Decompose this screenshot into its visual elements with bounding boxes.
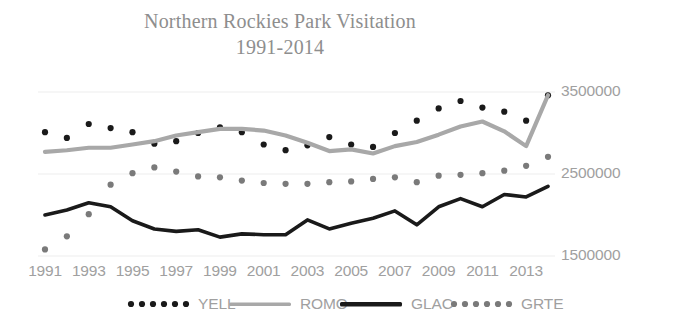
- data-point: [545, 154, 551, 160]
- data-point: [64, 233, 70, 239]
- data-point: [173, 168, 179, 174]
- x-axis-tick-label: 2001: [240, 262, 288, 280]
- chart-legend: YELLROMOGLACGRTE: [0, 292, 673, 322]
- data-point: [42, 246, 48, 252]
- data-point: [326, 134, 332, 140]
- data-series-layer: [42, 92, 551, 252]
- legend-swatch-solid-line: [227, 299, 293, 309]
- x-axis-tick-label: 1991: [21, 262, 69, 280]
- legend-label: GRTE: [521, 295, 563, 313]
- x-axis-tick-label: 1999: [196, 262, 244, 280]
- data-point: [217, 174, 223, 180]
- data-point: [304, 181, 310, 187]
- legend-swatch-dotted-line: [448, 299, 514, 309]
- series-glac: [45, 186, 548, 237]
- legend-item-grte[interactable]: GRTE: [448, 292, 563, 316]
- data-point: [436, 173, 442, 179]
- data-point: [414, 179, 420, 185]
- legend-item-glac[interactable]: GLAC: [338, 292, 453, 316]
- x-axis-tick-label: 2003: [283, 262, 331, 280]
- x-axis-tick-label: 2009: [415, 262, 463, 280]
- data-point: [86, 121, 92, 127]
- data-point: [479, 104, 485, 110]
- x-axis-tick-label: 1995: [108, 262, 156, 280]
- chart-title-line1: Northern Rockies Park Visitation: [144, 10, 416, 32]
- gridlines: [38, 92, 555, 256]
- chart-title: Northern Rockies Park Visitation 1991-20…: [0, 8, 560, 60]
- chart-plot-svg: [38, 70, 555, 262]
- data-point: [151, 164, 157, 170]
- data-point: [501, 109, 507, 115]
- data-point: [457, 172, 463, 178]
- x-axis-tick-label: 1997: [152, 262, 200, 280]
- data-point: [370, 176, 376, 182]
- data-point: [282, 147, 288, 153]
- data-point: [282, 181, 288, 187]
- data-point: [64, 135, 70, 141]
- data-point: [392, 130, 398, 136]
- x-axis-tick-label: 1993: [65, 262, 113, 280]
- chart-title-line2: 1991-2014: [0, 34, 560, 60]
- data-point: [86, 211, 92, 217]
- data-point: [523, 118, 529, 124]
- x-axis-tick-label: 2013: [502, 262, 550, 280]
- legend-label: GLAC: [411, 295, 453, 313]
- data-point: [523, 163, 529, 169]
- data-point: [348, 141, 354, 147]
- x-axis-tick-label: 2005: [327, 262, 375, 280]
- chart-container: Northern Rockies Park Visitation 1991-20…: [0, 0, 673, 333]
- legend-item-yell[interactable]: YELL: [125, 292, 236, 316]
- data-point: [479, 170, 485, 176]
- data-point: [436, 105, 442, 111]
- data-point: [261, 180, 267, 186]
- data-point: [392, 174, 398, 180]
- data-point: [42, 129, 48, 135]
- legend-swatch-dotted-line: [125, 299, 191, 309]
- legend-item-romo[interactable]: ROMO: [227, 292, 348, 316]
- data-point: [326, 179, 332, 185]
- y-axis-labels: 350000025000001500000: [561, 70, 673, 262]
- data-point: [457, 98, 463, 104]
- series-romo: [45, 95, 548, 153]
- x-axis-labels: 1991199319951997199920012003200520072009…: [0, 262, 560, 286]
- data-point: [348, 178, 354, 184]
- data-point: [173, 138, 179, 144]
- legend-swatch-solid-line-thick: [338, 299, 404, 309]
- plot-area: [38, 70, 555, 262]
- data-point: [370, 144, 376, 150]
- data-point: [129, 170, 135, 176]
- data-point: [108, 125, 114, 131]
- y-axis-tick-label: 2500000: [561, 164, 621, 182]
- data-point: [414, 118, 420, 124]
- data-point: [195, 173, 201, 179]
- data-point: [261, 141, 267, 147]
- data-point: [129, 129, 135, 135]
- y-axis-tick-label: 1500000: [561, 246, 621, 264]
- data-point: [239, 177, 245, 183]
- data-point: [108, 182, 114, 188]
- y-axis-tick-label: 3500000: [561, 82, 621, 100]
- x-axis-tick-label: 2011: [458, 262, 506, 280]
- x-axis-tick-label: 2007: [371, 262, 419, 280]
- data-point: [501, 168, 507, 174]
